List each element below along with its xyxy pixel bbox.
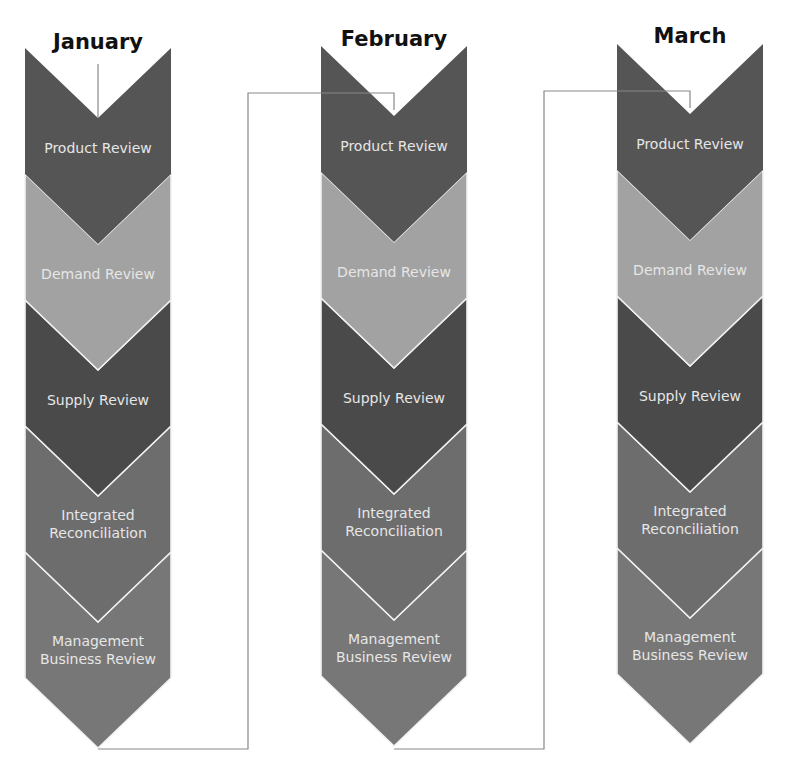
february-management-business-review: Management Business Review bbox=[319, 630, 469, 666]
january-demand-review: Demand Review bbox=[23, 265, 173, 283]
february-demand-review: Demand Review bbox=[319, 263, 469, 281]
march-demand-review: Demand Review bbox=[615, 261, 765, 279]
march-product-review: Product Review bbox=[615, 135, 765, 153]
february-supply-review: Supply Review bbox=[319, 389, 469, 407]
february-product-review: Product Review bbox=[319, 137, 469, 155]
month-title-january: January bbox=[18, 30, 178, 54]
january-management-business-review: Management Business Review bbox=[23, 632, 173, 668]
month-title-february: February bbox=[314, 27, 474, 51]
february-integrated-reconciliation: Integrated Reconciliation bbox=[319, 504, 469, 540]
january-integrated-reconciliation: Integrated Reconciliation bbox=[23, 506, 173, 542]
january-product-review: Product Review bbox=[23, 139, 173, 157]
january-supply-review: Supply Review bbox=[23, 391, 173, 409]
march-integrated-reconciliation: Integrated Reconciliation bbox=[615, 502, 765, 538]
sop-cycle-diagram: January February March Product Review De… bbox=[0, 0, 789, 775]
month-title-march: March bbox=[610, 24, 770, 48]
march-supply-review: Supply Review bbox=[615, 387, 765, 405]
march-management-business-review: Management Business Review bbox=[615, 628, 765, 664]
